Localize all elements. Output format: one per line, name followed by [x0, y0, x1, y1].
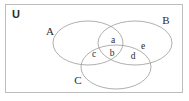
region-label-d: d: [131, 51, 136, 61]
region-label-b: b: [110, 48, 115, 58]
universal-set-label: U: [12, 8, 20, 20]
set-label-b: B: [162, 14, 169, 26]
set-label-a: A: [46, 25, 54, 37]
venn-diagram-figure: U A B C a b c d e: [0, 0, 189, 101]
venn-diagram-canvas: U A B C a b c d e: [0, 0, 189, 101]
region-label-a: a: [111, 35, 116, 45]
set-label-c: C: [74, 74, 81, 86]
region-label-c: c: [92, 49, 96, 59]
region-label-e: e: [141, 41, 145, 51]
